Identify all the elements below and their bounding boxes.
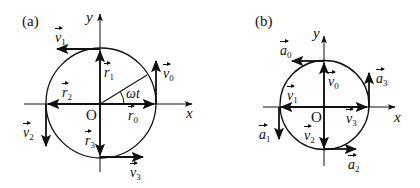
x-axis-label-b: x	[394, 110, 401, 125]
angle-label: ωt	[126, 87, 140, 101]
label-v1-b: v1	[287, 89, 298, 105]
diagram-a	[24, 14, 192, 172]
label-r0-a: r0	[128, 109, 138, 125]
label-v0-a: v0	[163, 67, 174, 83]
label-a1-b: a1	[259, 128, 271, 144]
label-a0-b: a0	[280, 44, 292, 60]
label-v0-b: v0	[328, 75, 339, 91]
label-v2-b: v2	[304, 129, 315, 145]
figure: (a) y x O ωt v1 r1 v0 r2 r0 v2 r3 v3 (b)…	[0, 0, 420, 188]
label-r2-a: r2	[62, 86, 72, 102]
y-axis-label-a: y	[86, 10, 93, 25]
label-r1-a: r1	[104, 66, 114, 82]
y-axis-label-b: y	[313, 26, 320, 41]
panel-label-a: (a)	[22, 14, 39, 29]
angle-arc	[121, 92, 125, 104]
x-axis-label-a: x	[186, 106, 193, 121]
label-v1-a: v1	[55, 31, 66, 47]
label-v2-a: v2	[23, 126, 34, 142]
label-a3-b: a3	[376, 72, 388, 88]
label-a2-b: a2	[348, 158, 360, 174]
panel-label-b: (b)	[255, 14, 273, 29]
label-v3-a: v3	[130, 166, 141, 182]
origin-label-b: O	[311, 110, 322, 125]
label-r3-a: r3	[85, 134, 95, 150]
label-v3-b: v3	[346, 112, 357, 128]
origin-label-a: O	[86, 108, 97, 123]
